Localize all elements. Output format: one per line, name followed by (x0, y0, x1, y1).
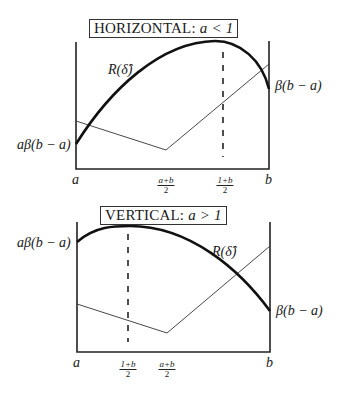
top-v-line (76, 64, 269, 150)
diagram-canvas (0, 0, 344, 393)
bottom-tick-mid-ab: a+b 2 (158, 360, 175, 379)
top-title: HORIZONTAL: a < 1 (89, 19, 238, 38)
top-title-prefix: HORIZONTAL: (94, 20, 200, 36)
bottom-right-value-label: β(b − a) (276, 303, 323, 319)
top-title-math: a < 1 (200, 20, 234, 36)
top-left-value-label: aβ(b − a) (17, 137, 71, 153)
bottom-title-math: a > 1 (188, 207, 222, 223)
top-tick-b: b (265, 172, 272, 188)
top-right-value-label: β(b − a) (275, 78, 322, 94)
bottom-tick-a: a (73, 355, 80, 371)
top-panel (76, 41, 269, 169)
bottom-curve-label: R(δ̂) (212, 244, 236, 260)
top-curve-label: R(δ̂) (108, 62, 132, 78)
top-r-curve (76, 41, 269, 144)
top-tick-mid-ab: a+b 2 (157, 176, 174, 195)
bottom-tick-b: b (266, 355, 273, 371)
bottom-title: VERTICAL: a > 1 (100, 206, 227, 225)
bottom-tick-mid-1b: 1+b 2 (119, 360, 136, 379)
top-tick-mid-1b: 1+b 2 (216, 176, 233, 195)
bottom-left-value-label: aβ(b − a) (17, 235, 71, 251)
bottom-r-curve (77, 226, 270, 311)
top-tick-a: a (72, 172, 79, 188)
bottom-title-prefix: VERTICAL: (105, 207, 188, 223)
bottom-v-line (77, 246, 270, 333)
bottom-frame (77, 222, 270, 352)
bottom-panel (77, 222, 270, 352)
